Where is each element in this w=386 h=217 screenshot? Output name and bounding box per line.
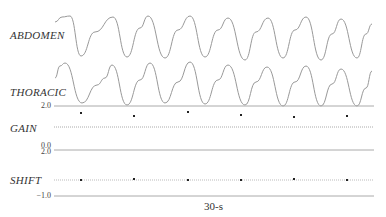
abdomen-waveform xyxy=(55,16,372,60)
shift-bottom-tick: −1.0 xyxy=(21,191,51,200)
shift-point xyxy=(133,178,135,180)
shift-top-tick: 2.0 xyxy=(21,147,51,156)
shift-point xyxy=(80,179,82,181)
thoracic-waveform xyxy=(55,62,372,106)
gain-point xyxy=(293,116,295,118)
shift-point xyxy=(240,179,242,181)
gain-point xyxy=(346,115,348,117)
shift-point xyxy=(346,179,348,181)
shift-point xyxy=(187,179,189,181)
gain-top-tick: 2.0 xyxy=(21,101,51,110)
gain-label: GAIN xyxy=(10,122,37,134)
gain-point xyxy=(80,112,82,114)
shift-label: SHIFT xyxy=(10,174,41,186)
gain-point xyxy=(240,114,242,116)
thoracic-label: THORACIC xyxy=(10,86,66,98)
gain-point xyxy=(187,111,189,113)
abdomen-label: ABDOMEN xyxy=(10,29,65,41)
shift-point xyxy=(293,178,295,180)
time-scale-label: 30-s xyxy=(204,200,223,212)
gain-point xyxy=(133,115,135,117)
